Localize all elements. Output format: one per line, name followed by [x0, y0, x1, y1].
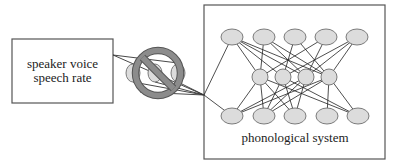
input-node — [253, 29, 275, 45]
output-node — [284, 108, 306, 124]
left-box: speaker voice speech rate — [12, 39, 113, 103]
output-node — [316, 108, 338, 124]
input-node — [284, 29, 306, 45]
hidden-node — [298, 69, 314, 85]
hidden-node — [321, 69, 337, 85]
output-node — [253, 108, 275, 124]
network-label: phonological system — [241, 130, 348, 145]
input-node — [221, 29, 243, 45]
input-node — [346, 29, 368, 45]
phonological-system-box: phonological system — [204, 5, 385, 159]
hidden-node — [252, 69, 268, 85]
left-box-line1: speaker voice — [27, 56, 98, 71]
hidden-node — [275, 69, 291, 85]
diagram: speaker voice speech rate — [0, 0, 401, 167]
left-box-line2: speech rate — [33, 70, 91, 85]
input-node — [315, 29, 337, 45]
output-node — [221, 108, 243, 124]
output-node — [347, 108, 369, 124]
